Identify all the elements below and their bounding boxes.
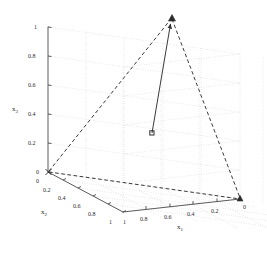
plot-canvas (0, 0, 267, 263)
axis-label-x3-base: x (12, 105, 16, 113)
axis-x2-spine (48, 172, 123, 212)
axis-label-x3-subscript: 3 (16, 109, 19, 114)
axis-spines (48, 27, 240, 212)
axis-label-x2: x2 (41, 209, 47, 216)
tick-label-x3-04: 0.4 (28, 111, 36, 117)
figure-3d-simplex-plot: 1 0.8 0.6 0.4 0.2 0 0 0.2 0.4 0.6 0.8 1 … (0, 0, 267, 263)
axis-ticks (48, 27, 240, 212)
tick-label-x3-1: 1 (34, 24, 37, 30)
axis-label-x1-base: x (177, 223, 181, 231)
tick-label-x2-0: 0 (36, 178, 39, 184)
trajectory-arrow (150, 24, 171, 135)
tick-label-x1-02: 0.2 (211, 208, 219, 214)
tick-label-x2-02: 0.2 (43, 187, 51, 193)
tick-label-x1-08: 0.8 (140, 216, 148, 222)
axis-label-x1: x1 (177, 224, 183, 231)
axis-label-x3: x3 (12, 106, 18, 113)
axis-label-x1-subscript: 1 (181, 227, 184, 232)
axis-label-x2-subscript: 2 (45, 212, 48, 217)
tick-label-x1-04: 0.4 (187, 211, 195, 217)
grid-right-wall (123, 54, 267, 212)
tick-label-x3-08: 0.8 (28, 53, 36, 59)
tick-label-x1-1: 1 (123, 219, 126, 225)
tick-label-x1-06: 0.6 (164, 214, 172, 220)
tick-label-x3-06: 0.6 (28, 82, 36, 88)
simplex-edges (49, 19, 240, 199)
tick-label-x3-0: 0 (36, 169, 39, 175)
grid-floor (48, 172, 267, 233)
tick-label-x3-02: 0.2 (28, 140, 36, 146)
tick-label-x2-06: 0.6 (73, 203, 81, 209)
right-vertex-marker (237, 196, 243, 202)
edge-apex-to-right (172, 19, 240, 198)
axis-label-x2-base: x (41, 208, 45, 216)
tick-label-x2-04: 0.4 (58, 195, 66, 201)
tick-label-x2-08: 0.8 (88, 211, 96, 217)
tick-label-x1-0: 0 (243, 204, 246, 210)
tick-label-x2-1: 1 (109, 219, 112, 225)
edge-origin-to-right (49, 172, 240, 199)
apex-vertex-marker (169, 15, 176, 22)
axis-x1-spine (123, 199, 240, 212)
